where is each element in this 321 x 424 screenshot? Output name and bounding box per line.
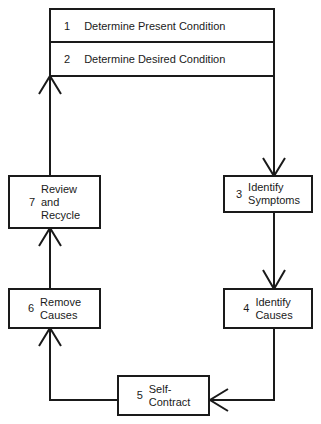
step-number: 1 [64, 20, 70, 32]
step-label-line1: Self- [149, 383, 191, 396]
step-label: Determine Present Condition [84, 20, 225, 32]
step-label-line2: Symptoms [248, 194, 300, 207]
step-1-determine-present: 1 Determine Present Condition [50, 9, 274, 42]
step-label-line2: and [41, 196, 80, 209]
step-label-line3: Recycle [41, 209, 80, 222]
step-number: 3 [236, 188, 242, 201]
step-label-line2: Contract [149, 396, 191, 409]
step-7-review-and-recycle: 7 Review and Recycle [8, 175, 101, 229]
step-number: 7 [29, 196, 35, 209]
step-label-line1: Review [41, 183, 80, 196]
step-2-determine-desired: 2 Determine Desired Condition [50, 42, 274, 76]
connector-5-to-6 [50, 328, 117, 400]
step-label-line1: Identify [255, 296, 292, 309]
step-label-line2: Causes [40, 309, 81, 322]
step-number: 2 [64, 53, 70, 65]
step-label-line1: Remove [40, 296, 81, 309]
step-label: Determine Desired Condition [84, 53, 225, 65]
step-4-identify-causes: 4 Identify Causes [223, 288, 313, 329]
step-label-line2: Causes [255, 309, 292, 322]
step-3-identify-symptoms: 3 Identify Symptoms [223, 175, 313, 213]
step-number: 6 [28, 302, 34, 315]
step-5-self-contract: 5 Self- Contract [117, 375, 210, 416]
step-6-remove-causes: 6 Remove Causes [8, 288, 101, 329]
step-label-line1: Identify [248, 181, 300, 194]
step-number: 5 [137, 389, 143, 402]
step-number: 4 [243, 302, 249, 315]
connector-4-to-5 [210, 328, 274, 400]
